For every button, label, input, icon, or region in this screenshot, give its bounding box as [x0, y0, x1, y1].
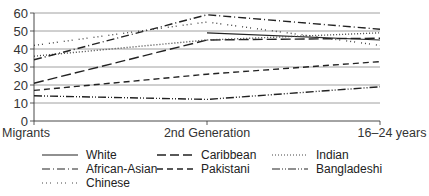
legend-label: White: [86, 148, 117, 162]
y-tick-label: 20: [14, 78, 28, 93]
x-tick-label: Migrants: [2, 126, 50, 140]
legend-item-bangladeshi: Bangladeshi: [272, 162, 382, 176]
y-tick-label: 30: [14, 60, 28, 75]
axes: [30, 13, 380, 125]
gridlines: [34, 13, 380, 103]
legend-item-caribbean: Caribbean: [157, 148, 256, 162]
x-tick-label: 16–24 years: [358, 126, 427, 140]
y-tick-label: 40: [14, 42, 28, 57]
legend-label: Caribbean: [201, 148, 256, 162]
dashdot-line-swatch-icon: [42, 166, 78, 172]
legend-label: Chinese: [86, 176, 130, 190]
longdash-line-swatch-icon: [157, 152, 193, 158]
legend-item-indian: Indian: [272, 148, 349, 162]
legend-item-pakistani: Pakistani: [157, 162, 250, 176]
x-tick-label: 2nd Generation: [164, 126, 250, 140]
series-line-indian: [34, 33, 380, 56]
legend-label: African-Asian: [86, 162, 157, 176]
y-tick-label: 10: [14, 96, 28, 111]
dotted-line-swatch-icon: [272, 152, 308, 158]
legend-item-african-asian: African-Asian: [42, 162, 157, 176]
dashdotdot-line-swatch-icon: [272, 166, 308, 172]
series-line-pakistani: [34, 62, 380, 91]
legend-label: Bangladeshi: [316, 162, 382, 176]
axis-labels: 0102030405060Migrants2nd Generation16–24…: [2, 6, 426, 141]
y-tick-label: 60: [14, 6, 28, 21]
series-line-caribbean: [34, 38, 380, 83]
series-lines: [34, 15, 380, 100]
legend-label: Indian: [316, 148, 349, 162]
solid-line-swatch-icon: [42, 152, 78, 158]
legend-item-chinese: Chinese: [42, 176, 130, 190]
series-line-bangladeshi: [34, 87, 380, 100]
sparse-dotted-line-swatch-icon: [42, 180, 78, 186]
line-chart: 0102030405060Migrants2nd Generation16–24…: [0, 0, 429, 145]
legend-item-white: White: [42, 148, 117, 162]
legend-label: Pakistani: [201, 162, 250, 176]
dashed-line-swatch-icon: [157, 166, 193, 172]
y-tick-label: 50: [14, 24, 28, 39]
